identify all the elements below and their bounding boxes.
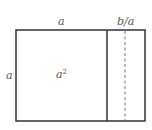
outer-rectangle	[16, 30, 145, 121]
area-exponent: 2	[63, 68, 67, 76]
left-side-label: a	[6, 70, 13, 81]
top-side-label: a	[58, 16, 65, 27]
square-area-label: a2	[56, 69, 67, 80]
strip-width-label: b/a	[117, 16, 134, 27]
